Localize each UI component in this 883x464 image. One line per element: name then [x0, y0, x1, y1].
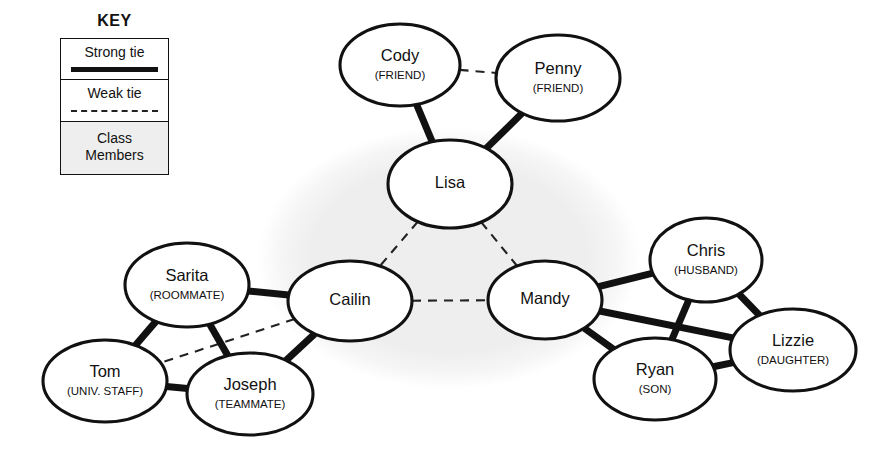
node-penny[interactable]: Penny(FRIEND)	[496, 35, 620, 121]
node-lizzie[interactable]: Lizzie(DAUGHTER)	[730, 309, 856, 391]
node-role-sarita: (ROOMMATE)	[150, 289, 225, 301]
node-label-sarita: Sarita	[165, 266, 209, 284]
edge-strong-tom-joseph	[166, 387, 187, 389]
node-label-tom: Tom	[89, 362, 120, 380]
node-cailin[interactable]: Cailin	[288, 261, 412, 341]
node-role-chris: (HUSBAND)	[674, 264, 738, 276]
node-role-penny: (FRIEND)	[533, 82, 584, 94]
strong-tie-swatch	[71, 67, 158, 72]
node-label-joseph: Joseph	[223, 375, 276, 393]
edge-strong-chris-ryan	[672, 300, 689, 340]
node-mandy[interactable]: Mandy	[488, 261, 602, 339]
legend-box: Strong tie Weak tie Class Members	[60, 38, 169, 175]
node-shape-ryan	[594, 338, 716, 420]
node-label-cailin: Cailin	[329, 290, 370, 308]
edge-strong-ryan-lizzie	[713, 363, 733, 367]
node-shape-penny	[496, 35, 620, 121]
node-shape-joseph	[187, 353, 313, 435]
node-label-lizzie: Lizzie	[772, 331, 814, 349]
node-sarita[interactable]: Sarita(ROOMMATE)	[125, 243, 249, 327]
node-joseph[interactable]: Joseph(TEAMMATE)	[187, 353, 313, 435]
node-tom[interactable]: Tom(UNIV. STAFF)	[43, 340, 167, 422]
node-role-joseph: (TEAMMATE)	[215, 398, 286, 410]
node-label-chris: Chris	[687, 241, 726, 259]
node-lisa[interactable]: Lisa	[388, 140, 512, 228]
edge-strong-mandy-lizzie	[600, 311, 733, 338]
node-shape-sarita	[125, 243, 249, 327]
node-role-tom: (UNIV. STAFF)	[67, 385, 143, 397]
legend-row-class-members: Class Members	[61, 122, 168, 174]
node-label-ryan: Ryan	[636, 360, 675, 378]
node-role-lizzie: (DAUGHTER)	[757, 354, 829, 366]
legend-row-strong-tie: Strong tie	[61, 39, 168, 80]
legend-label-class-line1: Class	[65, 130, 164, 147]
legend-title: KEY	[60, 12, 169, 30]
social-network-diagram: Cody(FRIEND)Penny(FRIEND)LisaCailinMandy…	[0, 0, 883, 464]
legend-panel: KEY Strong tie Weak tie Class Members	[60, 12, 169, 175]
legend-label-weak-tie: Weak tie	[65, 85, 164, 102]
legend-row-weak-tie: Weak tie	[61, 80, 168, 122]
node-shape-cody	[340, 24, 460, 106]
weak-tie-swatch	[71, 110, 158, 112]
node-label-lisa: Lisa	[435, 173, 466, 191]
edge-weak-cody-penny	[460, 70, 497, 73]
edge-strong-sarita-tom	[135, 321, 155, 345]
edge-strong-chris-lizzie	[739, 294, 760, 315]
edge-strong-cailin-sarita	[248, 291, 288, 295]
node-role-ryan: (SON)	[639, 383, 672, 395]
node-shape-chris	[650, 218, 762, 302]
node-label-penny: Penny	[535, 59, 583, 77]
node-ryan[interactable]: Ryan(SON)	[594, 338, 716, 420]
node-role-cody: (FRIEND)	[375, 69, 426, 81]
node-cody[interactable]: Cody(FRIEND)	[340, 24, 460, 106]
legend-label-strong-tie: Strong tie	[65, 44, 164, 61]
node-chris[interactable]: Chris(HUSBAND)	[650, 218, 762, 302]
legend-label-class-line2: Members	[65, 147, 164, 164]
node-label-cody: Cody	[381, 46, 420, 64]
edge-strong-sarita-joseph	[210, 324, 228, 356]
node-label-mandy: Mandy	[520, 289, 570, 307]
node-shape-lizzie	[730, 309, 856, 391]
node-shape-tom	[43, 340, 167, 422]
